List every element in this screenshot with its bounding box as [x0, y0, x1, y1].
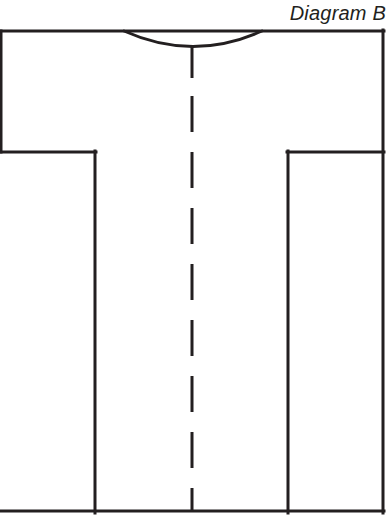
- neckline-arc: [124, 31, 262, 47]
- garment-flat-sketch: [0, 0, 392, 525]
- diagram-page: Diagram B: [0, 0, 392, 525]
